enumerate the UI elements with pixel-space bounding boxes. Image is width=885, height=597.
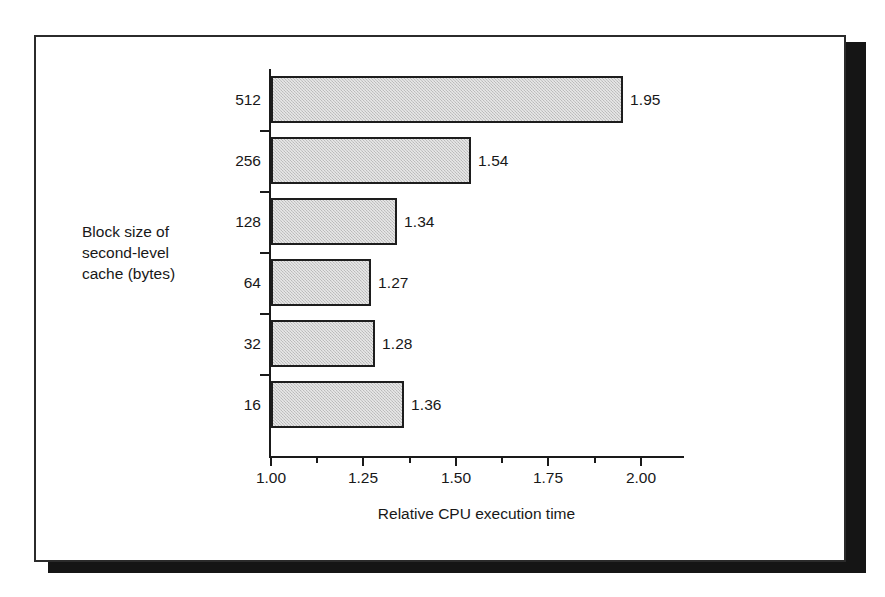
plot-area: 1.95 1.54 1.34 1.27 1.28 1.36 512 256 12… <box>36 37 848 564</box>
x-axis-line <box>269 456 684 458</box>
bar-512 <box>271 76 623 123</box>
y-axis-title-line-2: second-level <box>82 242 242 263</box>
x-tick-label-1-25: 1.25 <box>328 469 398 487</box>
y-axis-tick <box>260 313 269 315</box>
y-axis-tick <box>260 252 269 254</box>
figure-frame: 1.95 1.54 1.34 1.27 1.28 1.36 512 256 12… <box>34 35 846 562</box>
bar-value-512: 1.95 <box>630 91 661 109</box>
y-axis-tick <box>260 374 269 376</box>
bar-value-64: 1.27 <box>378 274 409 292</box>
x-axis-major-tick <box>640 458 642 466</box>
x-axis-title: Relative CPU execution time <box>269 505 684 523</box>
x-axis-major-tick <box>547 458 549 466</box>
bar-256 <box>271 137 471 184</box>
x-axis-major-tick <box>270 458 272 466</box>
bar-value-16: 1.36 <box>411 396 442 414</box>
x-tick-label-1-75: 1.75 <box>513 469 583 487</box>
bar-value-128: 1.34 <box>404 213 435 231</box>
x-axis-minor-tick <box>594 458 596 463</box>
y-axis-tick <box>260 130 269 132</box>
y-tick-label-16: 16 <box>197 396 261 414</box>
x-axis-major-tick <box>362 458 364 466</box>
y-axis-title-line-3: cache (bytes) <box>82 263 242 284</box>
y-axis-tick <box>260 191 269 193</box>
x-axis-major-tick <box>455 458 457 466</box>
x-tick-label-1-00: 1.00 <box>236 469 306 487</box>
x-axis-minor-tick <box>316 458 318 463</box>
x-tick-label-1-50: 1.50 <box>421 469 491 487</box>
y-axis-title-line-1: Block size of <box>82 221 242 242</box>
x-tick-label-2-00: 2.00 <box>606 469 676 487</box>
y-tick-label-256: 256 <box>197 152 261 170</box>
x-axis-minor-tick <box>409 458 411 463</box>
bar-128 <box>271 198 397 245</box>
y-tick-label-512: 512 <box>197 91 261 109</box>
bar-value-256: 1.54 <box>478 152 509 170</box>
y-tick-label-32: 32 <box>197 335 261 353</box>
bar-value-32: 1.28 <box>382 335 413 353</box>
bar-64 <box>271 259 371 306</box>
bar-32 <box>271 320 375 367</box>
y-axis-title: Block size of second-level cache (bytes) <box>82 221 242 284</box>
x-axis-minor-tick <box>501 458 503 463</box>
bar-16 <box>271 381 404 428</box>
